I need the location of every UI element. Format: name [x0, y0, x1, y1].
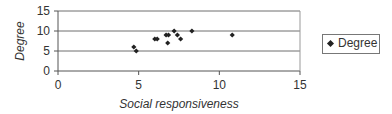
diamond-marker-icon	[327, 40, 334, 47]
x-axis-ticks: 051015	[55, 78, 307, 92]
gridlines	[58, 11, 300, 51]
data-point-marker	[131, 44, 136, 49]
data-point-marker	[178, 36, 183, 41]
x-tick-label: 5	[135, 78, 142, 92]
y-tick-label: 10	[37, 24, 51, 38]
y-tick-label: 5	[43, 44, 50, 58]
y-tick-label: 0	[43, 64, 50, 78]
y-axis-title: Degree	[13, 21, 27, 61]
data-point-marker	[230, 32, 235, 37]
axes	[54, 11, 300, 75]
data-point-marker	[172, 28, 177, 33]
data-point-marker	[189, 28, 194, 33]
x-axis-title: Social responsiveness	[119, 97, 238, 111]
scatter-chart: 051015 051015 Social responsiveness Degr…	[0, 0, 392, 114]
y-tick-label: 15	[37, 4, 51, 18]
y-axis-ticks: 051015	[37, 4, 51, 78]
legend: Degree	[322, 34, 380, 54]
data-point-marker	[165, 40, 170, 45]
data-points	[131, 28, 235, 53]
data-point-marker	[175, 32, 180, 37]
legend-label: Degree	[338, 36, 377, 50]
x-tick-label: 10	[213, 78, 227, 92]
x-tick-label: 15	[293, 78, 307, 92]
data-point-marker	[134, 48, 139, 53]
x-tick-label: 0	[55, 78, 62, 92]
